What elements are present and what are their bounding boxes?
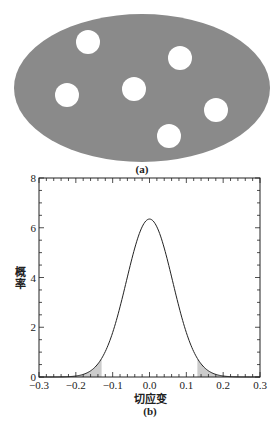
panel-b-distribution-chart: −0.3−0.2−0.10.00.10.20.3 02468 切应变 概率 (b… (15, 172, 268, 418)
y-tick-label: 8 (31, 172, 37, 184)
y-tick-labels: 02468 (31, 172, 37, 383)
white-pore (168, 46, 192, 70)
panel-b-caption: (b) (143, 405, 157, 418)
y-tick-label: 2 (31, 321, 37, 333)
distribution-curve (39, 219, 260, 377)
figure: (a) −0.3−0.2−0.10.00.10.20.3 02468 切应变 概… (0, 0, 277, 421)
shaded-tail (39, 358, 102, 377)
white-pore (157, 124, 181, 148)
x-tick-label: −0.1 (103, 379, 123, 391)
x-axis-title: 切应变 (134, 392, 167, 406)
white-pore (55, 83, 79, 107)
y-axis-title: 概率 (15, 265, 26, 291)
white-pore (76, 30, 100, 54)
y-tick-label: 6 (31, 222, 37, 234)
panel-a-caption: (a) (136, 163, 149, 176)
shaded-tail (197, 358, 260, 377)
white-pore (122, 77, 146, 101)
x-tick-label: 0.3 (253, 379, 267, 391)
x-tick-label: 0.2 (216, 379, 230, 391)
axis-ticks (39, 178, 260, 377)
y-tick-label: 4 (31, 272, 37, 284)
x-tick-label: −0.2 (66, 379, 86, 391)
plot-frame (39, 178, 260, 377)
x-tick-labels: −0.3−0.2−0.10.00.10.20.3 (29, 379, 267, 391)
panel-a-sample-diagram: (a) (14, 14, 270, 176)
white-pore (204, 98, 228, 122)
x-tick-label: 0.0 (143, 379, 157, 391)
x-tick-label: 0.1 (179, 379, 193, 391)
y-tick-label: 0 (31, 371, 37, 383)
